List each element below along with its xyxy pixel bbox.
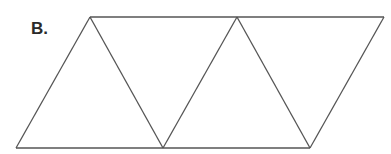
diagonal-2 <box>90 17 163 148</box>
diagonal-4 <box>237 17 310 148</box>
diagonal-3 <box>163 17 237 148</box>
triangle-net-figure <box>0 0 391 154</box>
diagram-canvas: B. <box>0 0 391 154</box>
diagonal-1 <box>16 17 90 148</box>
diagonal-5 <box>310 17 384 148</box>
